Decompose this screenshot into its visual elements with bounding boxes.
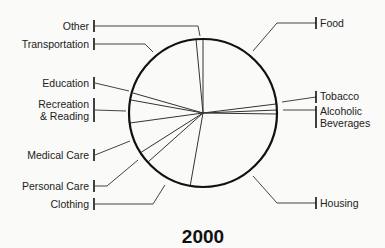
label-clothing: Clothing [50, 198, 89, 210]
label-housing: Housing [320, 197, 359, 209]
label-recreation-line2: & Reading [40, 110, 89, 122]
label-alcohol-line2: Beverages [320, 117, 370, 129]
label-recreation-line1: Recreation [38, 98, 89, 110]
chart-title-year: 2000 [182, 226, 224, 247]
label-food: Food [320, 17, 344, 29]
pie-chart: Other Transportation Education Recreatio… [0, 0, 385, 248]
label-transportation: Transportation [22, 38, 89, 50]
label-medical-care: Medical Care [27, 149, 89, 161]
label-tobacco: Tobacco [320, 90, 359, 102]
label-personal-care: Personal Care [22, 180, 89, 192]
label-alcohol-line1: Alcoholic [320, 105, 362, 117]
label-education: Education [42, 77, 89, 89]
label-other: Other [63, 20, 90, 32]
